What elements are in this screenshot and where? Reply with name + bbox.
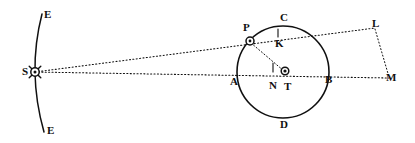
label-center: T: [284, 81, 291, 92]
planet-marker-icon: [246, 37, 254, 45]
label-sun: S: [22, 66, 28, 77]
sun-marker-icon: [29, 66, 41, 78]
label-foot-lower: N: [269, 80, 277, 91]
diagram-svg: [0, 0, 415, 143]
label-orbit-bottom: D: [280, 119, 288, 130]
label-planet: P: [243, 22, 250, 33]
figure-canvas: E E S P C D A B K N T L M: [0, 0, 415, 143]
label-orbit-right: B: [325, 74, 332, 85]
line-sun-to-m: [35, 72, 389, 78]
center-marker-icon: [281, 67, 289, 75]
label-foot-upper: K: [275, 38, 284, 49]
label-orbit-left: A: [230, 76, 238, 87]
label-orbit-top: C: [280, 12, 288, 23]
label-arc-bottom: E: [47, 125, 54, 136]
label-vertex-lower-right: M: [386, 72, 396, 83]
label-vertex-upper-right: L: [372, 18, 379, 29]
line-l-to-m: [375, 29, 389, 77]
label-arc-top: E: [44, 9, 51, 20]
